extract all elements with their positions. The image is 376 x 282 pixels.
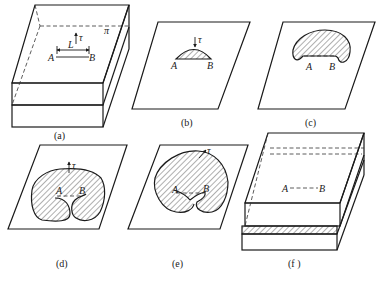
caption-b: (b) [181,117,193,129]
label-B-f: B [319,183,325,194]
label-tau-d: τ [72,160,76,171]
caption-c: (c) [305,117,316,129]
label-A-e: A [171,184,179,195]
dislocation-source-diagram: A B L τ π (a) τ A B (b) A B (c) τ A B (d… [0,0,376,282]
label-L: L [67,39,74,50]
block-front-lower [12,105,103,127]
label-B-b: B [207,60,213,71]
panel-e: τ A B (e) [128,145,248,270]
caption-d: (d) [56,258,68,270]
label-B-e: B [203,183,209,194]
panel-f: A B (f ) [242,133,364,270]
panel-b: τ A B (b) [132,22,250,129]
label-A-f: A [281,183,289,194]
label-tau: τ [79,32,83,43]
label-A: A [47,52,55,63]
caption-e: (e) [172,258,183,270]
slip-plane-edge [103,27,129,105]
caption-f: (f ) [288,258,301,270]
label-tau-b: τ [198,34,202,45]
label-A-c: A [305,61,313,72]
label-tau-e: τ [207,145,211,156]
label-B: B [89,52,95,63]
caption-a: (a) [54,130,65,142]
block-front-upper [12,83,103,105]
panel-d: τ A B (d) [8,145,127,270]
slip-plane-b [132,22,250,109]
block-front-lower-f [242,234,337,250]
block-front-upper-f [245,203,340,226]
label-pi: π [104,25,110,36]
block-top-face-f [245,133,364,203]
label-A-d: A [55,185,63,196]
swept-area-c [293,30,350,62]
label-A-b: A [170,60,178,71]
panel-c: A B (c) [258,22,375,129]
panel-a: A B L τ π (a) [12,5,129,142]
label-B-c: B [329,61,335,72]
label-B-d: B [79,185,85,196]
swept-area-b [176,50,211,60]
swept-area-e [154,151,228,213]
swept-area-d [31,169,104,222]
slipped-layer [242,226,337,234]
